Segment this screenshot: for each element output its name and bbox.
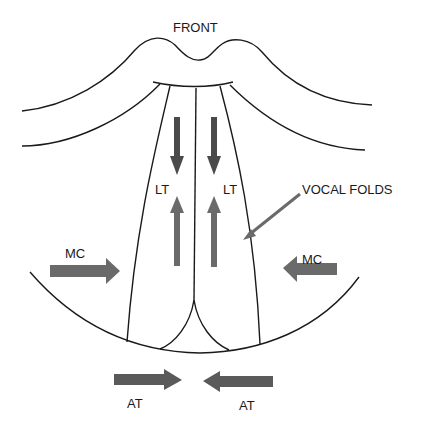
left-vocal-fold-outer bbox=[127, 86, 170, 342]
anterior-commissure bbox=[153, 82, 233, 87]
at-right-arrowhead bbox=[203, 371, 220, 392]
thyroid-outer-outline bbox=[22, 38, 372, 111]
thyroid-inner-outline bbox=[22, 84, 160, 146]
lt-left-down-arrowhead bbox=[170, 156, 184, 175]
label-lt-right: LT bbox=[223, 182, 237, 197]
label-lt-left: LT bbox=[155, 182, 169, 197]
vocal-folds-pointer-line bbox=[250, 194, 300, 234]
label-at-left: AT bbox=[127, 396, 143, 411]
mc-left-arrow-shaft bbox=[50, 265, 108, 277]
label-front: FRONT bbox=[173, 20, 218, 35]
thyroid-inner-outline-right bbox=[230, 85, 365, 150]
midline bbox=[194, 88, 196, 300]
label-mc-right: MC bbox=[302, 252, 322, 267]
lt-left-down-arrow-shaft bbox=[174, 117, 180, 157]
left-arytenoid-cusp bbox=[160, 300, 194, 349]
label-mc-left: MC bbox=[65, 246, 85, 261]
mc-left-arrowhead bbox=[106, 258, 120, 284]
lt-right-down-arrow-shaft bbox=[211, 117, 217, 157]
at-left-arrowhead bbox=[164, 369, 182, 390]
lt-right-up-arrow-shaft bbox=[211, 212, 217, 267]
label-at-right: AT bbox=[239, 398, 255, 413]
label-vocal-folds: VOCAL FOLDS bbox=[302, 182, 393, 197]
at-left-arrow-shaft bbox=[114, 374, 166, 385]
mc-right-arrowhead bbox=[283, 256, 297, 282]
lt-left-up-arrowhead bbox=[170, 196, 184, 213]
lt-left-up-arrow-shaft bbox=[174, 212, 180, 266]
larynx-diagram bbox=[0, 0, 421, 432]
right-arytenoid-cusp bbox=[194, 300, 229, 350]
lt-right-down-arrowhead bbox=[207, 156, 221, 175]
lt-right-up-arrowhead bbox=[207, 196, 221, 213]
right-vocal-fold-outer bbox=[220, 86, 260, 344]
at-right-arrow-shaft bbox=[218, 376, 273, 387]
